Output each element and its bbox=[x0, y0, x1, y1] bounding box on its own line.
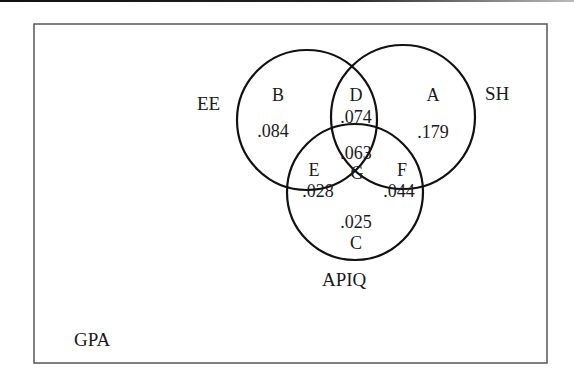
region-e-letter: E bbox=[309, 160, 320, 180]
region-c-value: .025 bbox=[340, 212, 372, 232]
region-g-value: .063 bbox=[340, 143, 372, 163]
region-b-value: .084 bbox=[257, 121, 289, 141]
region-e-value: .028 bbox=[302, 181, 334, 201]
set-label-sh: SH bbox=[485, 83, 510, 104]
universe-label-gpa: GPA bbox=[74, 329, 111, 350]
region-f-letter: F bbox=[397, 160, 407, 180]
region-d-value: .074 bbox=[340, 107, 372, 127]
region-g-letter: G bbox=[351, 163, 364, 183]
set-label-apiq: APIQ bbox=[322, 269, 367, 290]
region-c-letter: C bbox=[350, 233, 362, 253]
universe-frame bbox=[34, 24, 547, 363]
region-d-letter: D bbox=[350, 85, 363, 105]
region-a-value: .179 bbox=[417, 122, 449, 142]
venn-diagram: EE SH APIQ GPA B .084 D .074 A .179 .063… bbox=[0, 0, 574, 383]
region-f-value: .044 bbox=[383, 181, 415, 201]
region-a-letter: A bbox=[427, 85, 440, 105]
set-label-ee: EE bbox=[197, 93, 220, 114]
region-b-letter: B bbox=[272, 85, 284, 105]
